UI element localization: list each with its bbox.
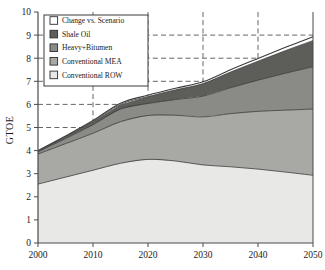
x-tick-label: 2000 bbox=[29, 250, 48, 260]
y-tick-label: 6 bbox=[26, 100, 31, 110]
y-tick-label: 3 bbox=[26, 169, 31, 179]
legend-swatch bbox=[50, 71, 58, 79]
legend-label: Heavy+Bitumen bbox=[62, 43, 112, 52]
legend-label: Change vs. Scenario bbox=[62, 16, 124, 25]
y-tick-label: 0 bbox=[26, 238, 31, 248]
legend-swatch bbox=[50, 58, 58, 66]
y-tick-label: 5 bbox=[26, 123, 31, 133]
x-tick-label: 2040 bbox=[249, 250, 268, 260]
legend-label: Conventional ROW bbox=[62, 71, 123, 80]
legend-swatch bbox=[50, 44, 58, 52]
y-tick-label: 1 bbox=[26, 215, 31, 225]
y-tick-label: 2 bbox=[26, 192, 31, 202]
legend-label: Shale Oil bbox=[62, 30, 90, 39]
y-tick-label: 4 bbox=[26, 146, 31, 156]
x-tick-label: 2020 bbox=[139, 250, 158, 260]
y-tick-label: 8 bbox=[26, 54, 31, 64]
chart-figure: 012345678910 200020102020203020402050 GT… bbox=[0, 0, 325, 270]
y-tick-label: 7 bbox=[26, 77, 31, 87]
x-tick-label: 2010 bbox=[84, 250, 103, 260]
stacked-area-chart: 012345678910 200020102020203020402050 GT… bbox=[0, 0, 325, 270]
y-tick-label: 9 bbox=[26, 31, 31, 41]
legend-swatch bbox=[50, 30, 58, 38]
legend-label: Conventional MEA bbox=[62, 57, 122, 66]
legend-swatch bbox=[50, 17, 58, 25]
chart-legend: Change vs. ScenarioShale OilHeavy+Bitume… bbox=[44, 15, 148, 86]
x-tick-label: 2050 bbox=[304, 250, 323, 260]
x-tick-label: 2030 bbox=[194, 250, 213, 260]
y-axis-title: GTOE bbox=[4, 116, 15, 144]
y-tick-label: 10 bbox=[22, 7, 32, 17]
